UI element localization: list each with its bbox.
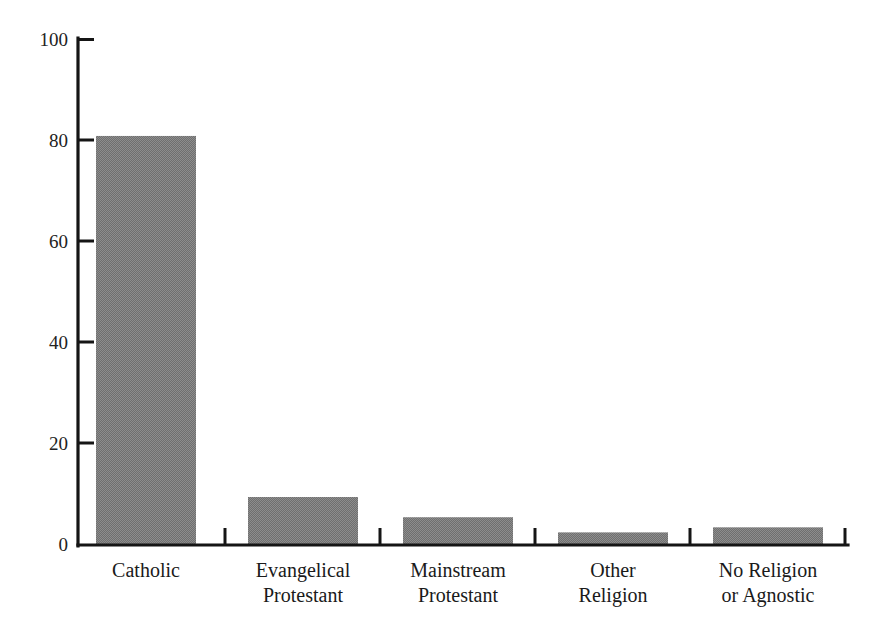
chart-canvas: 100 80 60 40 20 0 CatholicEvangelicalPro… bbox=[0, 0, 876, 628]
y-tick-label-100: 100 bbox=[40, 29, 69, 50]
x-label-no-religion-or-agnostic-line-1: No Religion bbox=[719, 559, 817, 582]
x-label-other-religion-line-2: Religion bbox=[579, 584, 648, 607]
x-label-other-religion-line-1: Other bbox=[590, 559, 636, 581]
bar-mainstream-protestant bbox=[403, 517, 513, 545]
y-tick-label-0: 0 bbox=[59, 534, 69, 555]
x-label-mainstream-protestant-line-1: Mainstream bbox=[410, 559, 506, 581]
x-label-evangelical-protestant-line-2: Protestant bbox=[263, 584, 343, 606]
x-label-catholic-line-1: Catholic bbox=[112, 559, 180, 581]
y-tick-label-60: 60 bbox=[49, 231, 68, 252]
bar-no-religion-or-agnostic bbox=[713, 527, 823, 545]
bar-catholic bbox=[96, 136, 196, 545]
y-tick-label-40: 40 bbox=[49, 332, 68, 353]
y-tick-label-80: 80 bbox=[49, 130, 68, 151]
x-label-evangelical-protestant-line-1: Evangelical bbox=[256, 559, 351, 582]
x-label-mainstream-protestant-line-2: Protestant bbox=[418, 584, 498, 606]
bar-other-religion bbox=[558, 532, 668, 545]
y-tick-label-20: 20 bbox=[49, 433, 68, 454]
bar-evangelical-protestant bbox=[248, 497, 358, 545]
bar-chart-figure: 100 80 60 40 20 0 CatholicEvangelicalPro… bbox=[0, 0, 876, 628]
x-label-no-religion-or-agnostic-line-2: or Agnostic bbox=[722, 584, 815, 607]
